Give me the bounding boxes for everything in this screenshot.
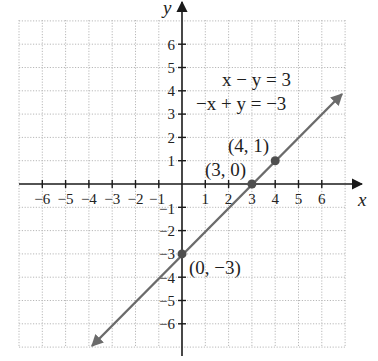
graph-line-x-minus-y-equals-3 [92,94,342,346]
coordinate-plane: −6 −5 −4 −3 −2 −1 1 2 3 4 5 6 6 5 4 3 2 … [0,0,378,361]
x-tick-labels: −6 −5 −4 −3 −2 −1 1 2 3 4 5 6 [34,191,326,207]
y-tick-label: 1 [168,153,176,169]
y-tick-label: −6 [159,316,175,332]
y-tick-label: 4 [168,83,176,99]
y-tick-label: 2 [168,130,176,146]
x-tick-label: 1 [202,191,210,207]
x-tick-label: 4 [271,191,279,207]
point-3-0 [247,180,256,189]
x-tick-label: 3 [248,191,256,207]
x-tick-label: −3 [104,191,120,207]
equation-label-2: −x + y = −3 [196,93,286,114]
y-axis-label: y [161,0,172,18]
y-tick-label: −1 [159,201,175,217]
x-tick-label: −5 [58,191,74,207]
equation-label-1: x − y = 3 [222,69,291,90]
y-tick-label: 3 [168,106,176,122]
y-tick-label: 5 [168,60,176,76]
point-0-neg3 [178,249,187,258]
point-label-4-1: (4, 1) [228,135,269,157]
x-axis-label: x [357,189,367,210]
x-tick-label: −4 [81,191,97,207]
y-tick-label: −3 [159,246,175,262]
y-tick-label: 6 [168,37,176,53]
x-tick-label: −6 [34,191,50,207]
point-4-1 [271,156,280,165]
x-tick-label: 5 [295,191,303,207]
y-tick-label: −2 [159,223,175,239]
x-tick-label: −2 [128,191,144,207]
x-tick-label: 6 [318,191,326,207]
point-label-3-0: (3, 0) [205,159,246,181]
point-label-0-neg3: (0, −3) [189,257,241,279]
y-tick-label: −5 [159,293,175,309]
